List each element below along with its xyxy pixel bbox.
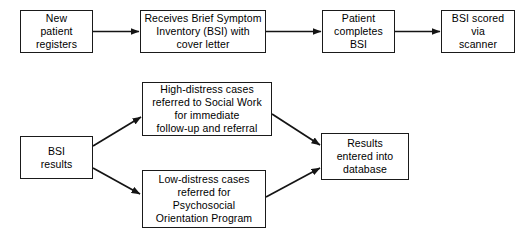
arrow-bsi-results-to-high-distress [93,117,141,146]
node-results-entered-into-database[interactable]: Results entered into database [321,133,409,180]
node-high-distress-cases-label: High-distress cases referred to Social W… [143,83,271,134]
node-new-patient-registers[interactable]: New patient registers [20,10,93,53]
flowchart-canvas: New patient registers Receives Brief Sym… [0,0,530,241]
node-bsi-scored-via-scanner[interactable]: BSI scored via scanner [441,10,515,53]
node-bsi-results-label: BSI results [21,145,92,171]
node-new-patient-registers-label: New patient registers [21,12,92,50]
node-low-distress-cases[interactable]: Low-distress cases referred for Psychoso… [142,170,266,228]
arrow-low-distress-to-results-db [266,168,320,197]
node-bsi-scored-via-scanner-label: BSI scored via scanner [442,12,514,50]
arrow-high-distress-to-results-db [272,114,320,145]
node-receives-bsi-label: Receives Brief Symptom Inventory (BSI) w… [141,12,265,50]
arrow-bsi-results-to-low-distress [93,168,140,194]
node-receives-bsi[interactable]: Receives Brief Symptom Inventory (BSI) w… [140,10,266,53]
node-patient-completes-bsi-label: Patient completes BSI [323,12,394,50]
node-bsi-results[interactable]: BSI results [20,136,93,179]
node-low-distress-cases-label: Low-distress cases referred for Psychoso… [143,173,265,224]
node-results-entered-into-database-label: Results entered into database [322,137,408,175]
node-patient-completes-bsi[interactable]: Patient completes BSI [322,10,395,53]
node-high-distress-cases[interactable]: High-distress cases referred to Social W… [142,82,272,136]
